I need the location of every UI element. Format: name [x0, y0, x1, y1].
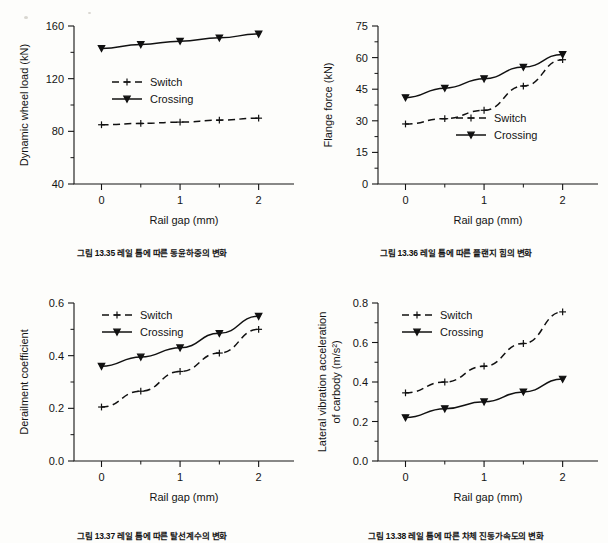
marker-plus	[137, 120, 144, 127]
y-tick-label: 0.2	[49, 402, 64, 414]
y-tick-label: 0.4	[49, 350, 64, 362]
x-tick-label: 0	[98, 194, 104, 206]
y-tick-label: 0.0	[353, 455, 368, 467]
x-tick-label: 2	[560, 471, 566, 483]
marker-triangle-down	[255, 31, 261, 37]
legend: SwitchCrossing	[112, 76, 193, 105]
y-tick-label: 0.4	[353, 376, 368, 388]
y-tick-label: 40	[52, 178, 64, 190]
series-line-crossing	[102, 316, 259, 366]
x-axis-title: Rail gap (mm)	[149, 214, 218, 226]
legend-label-switch: Switch	[140, 309, 172, 321]
y-tick-label: 0.2	[353, 416, 368, 428]
legend-label-crossing: Crossing	[440, 326, 483, 338]
marker-plus	[137, 388, 144, 395]
x-tick-label: 0	[402, 194, 408, 206]
marker-plus	[402, 389, 409, 396]
marker-triangle-down	[520, 64, 526, 70]
marker-triangle-down	[98, 363, 104, 369]
marker-plus	[441, 115, 448, 122]
series-line-switch	[406, 312, 563, 393]
figure-caption: 그림 13.35 레일 틈에 따른 동윤하중의 변화	[77, 246, 227, 258]
y-axis-title: Dynamic wheel load (kN)	[18, 44, 30, 166]
marker-plus	[98, 404, 105, 411]
marker-plus	[98, 121, 105, 128]
axis-lines	[378, 26, 598, 184]
marker-triangle-down	[481, 399, 487, 405]
x-tick-label: 2	[256, 471, 262, 483]
figure-13-38: 0.00.20.40.60.8012Rail gap (mm)Lateral v…	[304, 271, 608, 543]
y-tick-label: 0.8	[353, 297, 368, 309]
y-tick-label: 0	[362, 178, 368, 190]
marker-triangle-down	[468, 132, 474, 138]
marker-plus	[255, 115, 262, 122]
x-axis-title: Rail gap (mm)	[453, 491, 522, 503]
y-tick-label: 80	[52, 125, 64, 137]
figure-caption: 그림 13.38 레일 틈에 따른 차체 진동가속도의 변화	[368, 529, 544, 541]
y-tick-label: 0.0	[49, 455, 64, 467]
x-tick-label: 1	[481, 194, 487, 206]
legend: SwitchCrossing	[102, 309, 183, 338]
figure-13-36: 01530456075012Rail gap (mm)Flange force …	[304, 0, 608, 271]
x-tick-label: 2	[560, 194, 566, 206]
marker-plus	[481, 363, 488, 370]
x-axis-title: Rail gap (mm)	[453, 214, 522, 226]
x-tick-label: 1	[177, 194, 183, 206]
marker-triangle-down	[114, 329, 120, 335]
legend-label-crossing: Crossing	[140, 326, 183, 338]
marker-triangle-down	[442, 406, 448, 412]
marker-plus	[402, 121, 409, 128]
marker-triangle-down	[138, 42, 144, 48]
legend: SwitchCrossing	[402, 309, 483, 338]
chart-derailment-coefficient: 0.00.20.40.6012Rail gap (mm)Derailment c…	[2, 285, 302, 517]
x-tick-label: 0	[402, 471, 408, 483]
y-tick-label: 0.6	[353, 337, 368, 349]
figure-caption: 그림 13.36 레일 틈에 따른 플랜지 힘의 변화	[380, 246, 532, 258]
figure-caption: 그림 13.37 레일 틈에 따른 탈선계수의 변화	[77, 529, 227, 541]
x-tick-label: 2	[256, 194, 262, 206]
marker-plus	[520, 340, 527, 347]
chart-lateral-vibration-acceleration: 0.00.20.40.60.8012Rail gap (mm)Lateral v…	[306, 285, 606, 517]
marker-plus	[177, 368, 184, 375]
axis-lines	[378, 303, 598, 461]
marker-triangle-down	[98, 46, 104, 52]
marker-triangle-down	[414, 329, 420, 335]
legend-label-crossing: Crossing	[150, 93, 193, 105]
y-tick-label: 45	[356, 83, 368, 95]
y-axis-title: Derailment coefficient	[18, 329, 30, 435]
marker-triangle-down	[520, 389, 526, 395]
marker-plus	[216, 117, 223, 124]
marker-triangle-down	[402, 95, 408, 101]
marker-plus	[520, 83, 527, 90]
x-tick-label: 1	[481, 471, 487, 483]
x-axis-title: Rail gap (mm)	[149, 491, 218, 503]
marker-triangle-down	[559, 52, 565, 58]
y-tick-label: 60	[356, 52, 368, 64]
figure-grid: 4080120160012Rail gap (mm)Dynamic wheel …	[0, 0, 608, 543]
y-tick-label: 160	[46, 20, 64, 32]
marker-plus	[216, 350, 223, 357]
legend-label-switch: Switch	[440, 309, 472, 321]
chart-dynamic-wheel-load: 4080120160012Rail gap (mm)Dynamic wheel …	[2, 8, 302, 240]
figure-page: 4080120160012Rail gap (mm)Dynamic wheel …	[0, 0, 608, 543]
axis-lines	[74, 26, 294, 184]
y-axis-title: Lateral vibration accelerationof carbody…	[316, 312, 342, 453]
marker-triangle-down	[481, 76, 487, 82]
marker-triangle-down	[255, 313, 261, 319]
marker-plus	[468, 115, 475, 122]
marker-plus	[414, 312, 421, 319]
marker-triangle-down	[177, 38, 183, 44]
marker-plus	[124, 79, 131, 86]
marker-plus	[441, 379, 448, 386]
marker-triangle-down	[177, 345, 183, 351]
chart-svg-13-35: 4080120160012Rail gap (mm)Dynamic wheel …	[2, 8, 302, 240]
axis-lines	[74, 303, 294, 461]
marker-plus	[114, 312, 121, 319]
marker-plus	[177, 119, 184, 126]
y-tick-label: 75	[356, 20, 368, 32]
marker-plus	[255, 326, 262, 333]
y-axis-title-line2: of carbody (m/s²)	[330, 340, 342, 423]
y-axis-title: Flange force (kN)	[322, 63, 334, 148]
chart-svg-13-37: 0.00.20.40.6012Rail gap (mm)Derailment c…	[2, 285, 302, 517]
y-tick-label: 0.6	[49, 297, 64, 309]
